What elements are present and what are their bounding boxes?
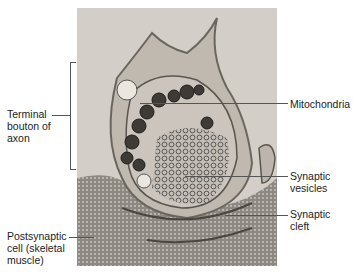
label-line: cleft — [290, 220, 330, 232]
label-terminal-bouton: Terminal bouton of axon — [7, 108, 51, 144]
label-mitochondria: Mitochondria — [290, 98, 350, 110]
micrograph-illustration — [77, 8, 277, 266]
label-line: Synaptic — [290, 208, 330, 220]
leader-line-synaptic-vesicles — [185, 176, 288, 177]
label-line: vesicles — [290, 182, 330, 194]
label-postsynaptic-cell: Postsynaptic cell (skeletal muscle) — [7, 230, 67, 266]
label-synaptic-cleft: Synaptic cleft — [290, 208, 330, 232]
label-line: bouton of — [7, 120, 51, 132]
leader-line-mitochondria — [140, 103, 288, 104]
label-line: Postsynaptic — [7, 230, 67, 242]
leader-line-synaptic-cleft — [225, 215, 288, 216]
bracket-terminal-bouton — [70, 62, 76, 170]
label-line: axon — [7, 132, 51, 144]
label-line: Synaptic — [290, 170, 330, 182]
leader-line-terminal-bouton — [52, 115, 70, 116]
label-synaptic-vesicles: Synaptic vesicles — [290, 170, 330, 194]
label-line: muscle) — [7, 254, 67, 266]
label-line: cell (skeletal — [7, 242, 67, 254]
label-line: Terminal — [7, 108, 51, 120]
electron-micrograph — [77, 8, 277, 266]
leader-line-postsynaptic-cell — [69, 237, 94, 238]
